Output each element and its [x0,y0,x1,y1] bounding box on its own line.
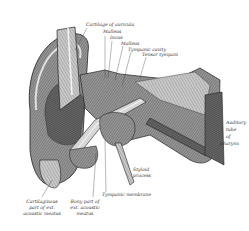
label-auditory-tube-1: Auditory [226,120,246,125]
label-cartilage-of-auricula: Cartilage of auricula [86,22,134,27]
label-styloid-2: process [133,173,151,178]
label-cartilaginous-meatus-2: part of ext. [16,205,68,210]
label-bony-meatus-1: Bony part of [64,199,106,204]
label-tympanic-membrane: Tympanic membrane [102,192,151,197]
ear-anatomy-figure: Cartilage of auricula Malleus Incus Mall… [0,0,249,231]
label-malleus: Malleus [103,29,121,34]
label-cartilaginous-meatus-1: Cartilaginous [16,199,68,204]
label-cartilaginous-meatus-3: acoustic meatus [16,211,68,216]
label-bony-meatus-3: meatus [64,211,106,216]
label-auditory-tube-4: pharynx [220,141,239,146]
label-incus: Incus [110,35,123,40]
label-auditory-tube-3: of [226,134,230,139]
label-auditory-tube-2: tube [226,127,236,132]
label-malleus-2: Malleus [121,41,139,46]
label-tensor-tympani: Tensor tympani [142,52,178,57]
label-bony-meatus-2: ext. acoustic [64,205,106,210]
label-styloid-1: Styloid [133,167,149,172]
